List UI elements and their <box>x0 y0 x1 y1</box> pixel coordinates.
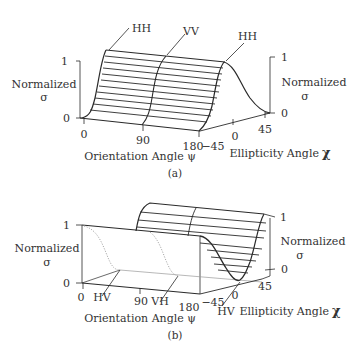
chi-tick-45-b: 45 <box>258 280 272 293</box>
psi-tick-90-b: 90 <box>134 295 148 308</box>
psi-tick-0-b: 0 <box>78 291 85 304</box>
psi-tick-90-a: 90 <box>136 134 150 147</box>
tick-0-b: 0 <box>63 277 70 290</box>
right-sigma-symbol-b: σ <box>296 249 304 262</box>
polarization-signature-figure: 1 0 Normalized σ 0 90 180 Orientation An… <box>0 0 350 353</box>
chi-tick-neg45-a: −45 <box>201 140 224 153</box>
chi-tick-0-a: 0 <box>232 130 239 143</box>
panel-b: 1 0 Normalized σ 0 HV 90 VH 180 Orientat… <box>15 203 346 341</box>
sigma-symbol-b: σ <box>43 256 51 269</box>
panel-a: 1 0 Normalized σ 0 90 180 Orientation An… <box>12 22 347 179</box>
callout-hv-right-b: HV <box>217 305 236 318</box>
tick-1-b: 1 <box>63 219 70 232</box>
chi-tick-45-a: 45 <box>258 123 272 136</box>
callout-hv-left-b: HV <box>93 291 112 304</box>
panel-label-b: (b) <box>168 329 183 341</box>
psi-tick-0-a: 0 <box>81 128 88 141</box>
right-sigma-symbol-a: σ <box>301 90 309 103</box>
tick-0-a: 0 <box>63 112 70 125</box>
callout-vv-a: VV <box>182 25 200 38</box>
right-tick-0-a: 0 <box>281 107 288 120</box>
chi-tick-0-b: 0 <box>232 289 239 302</box>
right-tick-0-b: 0 <box>281 263 288 276</box>
chi-label-a: Ellipticity Angleχ <box>229 145 330 160</box>
panel-label-a: (a) <box>168 167 182 179</box>
callout-vh-b: VH <box>150 295 169 308</box>
sigma-symbol-a: σ <box>40 91 48 104</box>
right-tick-1-b: 1 <box>280 211 287 224</box>
surface-b <box>136 203 266 281</box>
sigma-label-a: Normalized <box>12 78 77 91</box>
sigma-label-b: Normalized <box>15 242 80 255</box>
right-tick-1-a: 1 <box>281 51 288 64</box>
callout-hh-right-a: HH <box>238 30 257 43</box>
right-sigma-label-a: Normalized <box>282 76 347 89</box>
surface-a <box>82 50 270 131</box>
psi-label-b: Orientation Angle ψ <box>84 312 196 325</box>
right-sigma-label-b: Normalized <box>281 235 346 248</box>
chi-label-b: Ellipticity Angleχ <box>239 303 340 318</box>
tick-1-a: 1 <box>61 55 68 68</box>
callout-hh-left-a: HH <box>132 22 151 35</box>
psi-axis-a <box>80 118 200 131</box>
psi-label-a: Orientation Angle ψ <box>84 150 196 163</box>
